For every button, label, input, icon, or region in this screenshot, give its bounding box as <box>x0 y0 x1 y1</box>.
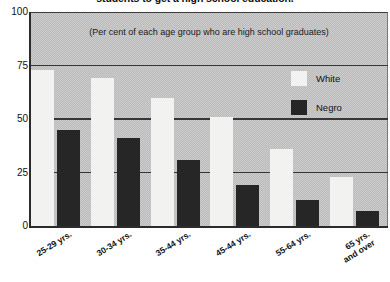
bar-white-4 <box>270 149 293 226</box>
legend-label-white: White <box>316 73 340 84</box>
bar-white-2 <box>151 98 174 226</box>
x-category-label: 55-64 yrs. <box>247 229 312 275</box>
y-tick-label: 25 <box>2 168 28 178</box>
bar-negro-2 <box>177 160 200 226</box>
x-category-label: 45-44 yrs. <box>187 229 252 275</box>
y-tick-label: 50 <box>2 114 28 124</box>
bar-negro-5 <box>356 211 379 226</box>
x-axis-line <box>29 226 388 228</box>
bar-negro-0 <box>57 130 80 226</box>
chart-legend: White Negro <box>291 71 371 129</box>
chart-title: students to get a high school education. <box>0 0 390 4</box>
y-tick-label: 100 <box>2 7 28 17</box>
x-category-label: 30-34 yrs. <box>68 229 133 275</box>
bar-chart-figure: students to get a high school education.… <box>0 0 390 282</box>
legend-swatch-negro-icon <box>291 100 307 115</box>
bar-negro-3 <box>236 185 259 226</box>
bar-white-0 <box>31 70 54 226</box>
bar-white-1 <box>91 78 114 226</box>
bar-white-3 <box>210 117 233 226</box>
x-category-label: 65 yrs. and over <box>307 229 377 282</box>
y-tick-label: 75 <box>2 61 28 71</box>
x-axis-category-labels: 25-29 yrs.30-34 yrs.35-44 yrs.45-44 yrs.… <box>30 229 388 282</box>
legend-item-negro: Negro <box>291 100 371 115</box>
x-category-label: 35-44 yrs. <box>128 229 193 275</box>
bar-negro-1 <box>117 138 140 226</box>
legend-swatch-white-icon <box>291 71 307 86</box>
legend-item-white: White <box>291 71 371 86</box>
y-tick-label: 0 <box>2 221 28 231</box>
x-category-label: 25-29 yrs. <box>8 229 73 275</box>
bar-white-5 <box>330 177 353 226</box>
legend-label-negro: Negro <box>316 102 342 113</box>
bar-negro-4 <box>296 200 319 226</box>
